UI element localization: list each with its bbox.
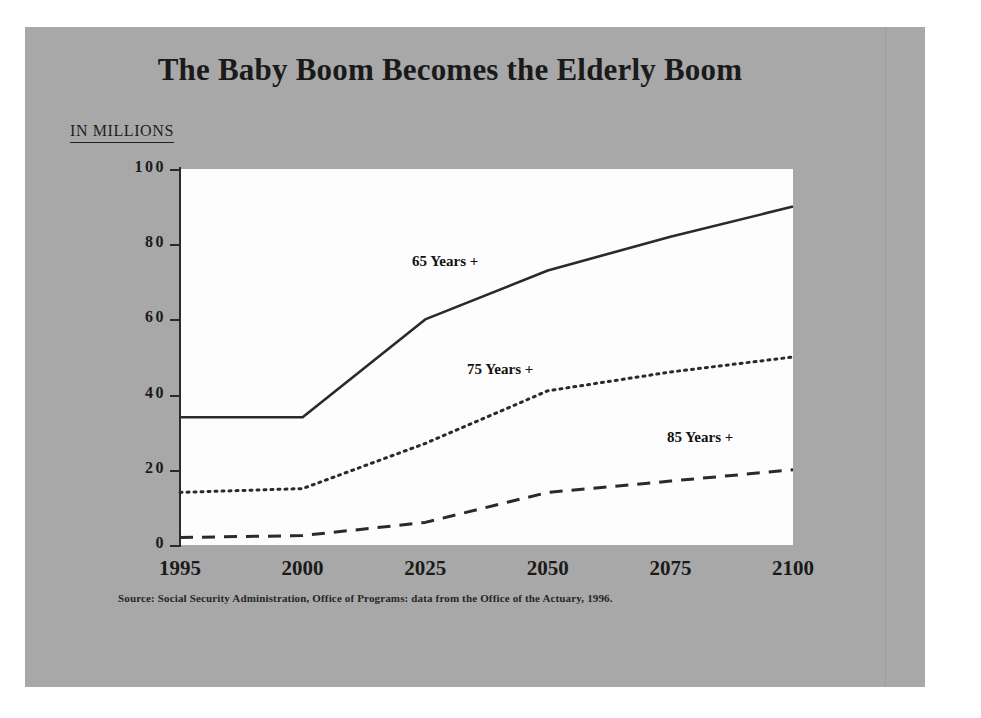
source-note: Source: Social Security Administration, … [118,592,613,604]
series-label-85-years: 85 Years + [667,429,733,446]
series-line-65-years [180,207,793,418]
y-axis-tick-mark [170,244,179,246]
slide-page: The Baby Boom Becomes the Elderly Boom I… [0,0,981,718]
chart-container: The Baby Boom Becomes the Elderly Boom I… [0,0,900,660]
series-label-65-years: 65 Years + [412,253,478,270]
series-line-85-years [180,470,793,538]
y-axis-tick-mark [170,545,179,547]
y-axis-tick-mark [170,319,179,321]
y-axis-tick-mark [170,395,179,397]
chart-series-layer [0,0,900,660]
series-label-75-years: 75 Years + [467,361,533,378]
y-axis-tick-mark [170,169,179,171]
y-axis-tick-mark [170,470,179,472]
